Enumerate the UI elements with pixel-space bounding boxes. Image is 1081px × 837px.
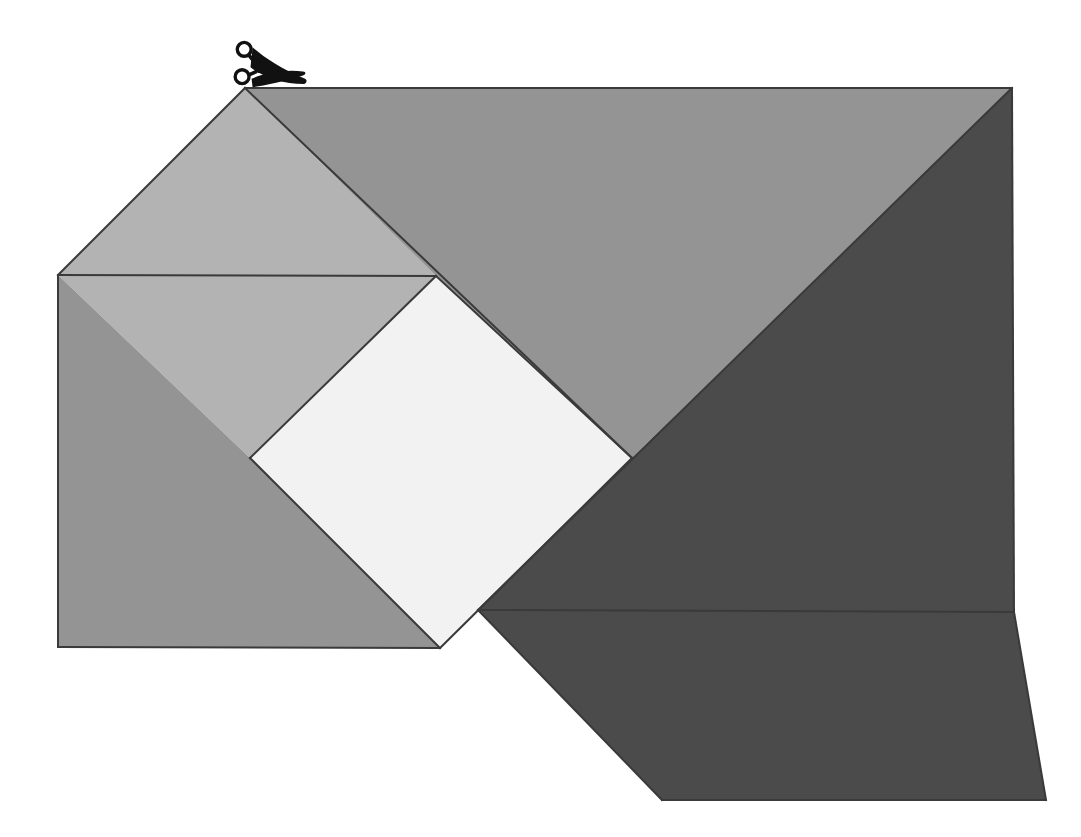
bottom-left-edge: [58, 647, 440, 648]
diagram-canvas: [0, 0, 1081, 837]
horizontal-cut-line: [58, 275, 436, 276]
dissection-figure: [0, 0, 1081, 837]
